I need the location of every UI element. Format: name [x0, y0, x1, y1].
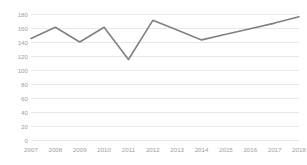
x-axis-tick-label: 2011	[115, 146, 141, 153]
x-axis-tick-label: 2016	[237, 146, 263, 153]
data-series-line	[31, 14, 299, 140]
y-axis-tick-label: 60	[6, 95, 28, 102]
y-axis-tick-label: 140	[6, 39, 28, 46]
plot-area	[31, 14, 299, 140]
y-axis-tick-label: 180	[6, 11, 28, 18]
x-axis-tick-label: 2010	[91, 146, 117, 153]
y-axis-tick-label: 40	[6, 109, 28, 116]
x-axis-tick-label: 2012	[140, 146, 166, 153]
x-axis-tick-label: 2013	[164, 146, 190, 153]
y-axis-tick-label: 80	[6, 81, 28, 88]
x-axis-tick-label: 2008	[42, 146, 68, 153]
y-axis-tick-label: 0	[6, 137, 28, 144]
gridline	[31, 140, 299, 141]
y-axis-tick-label: 160	[6, 25, 28, 32]
x-axis-tick-label: 2009	[67, 146, 93, 153]
line-chart: 020406080100120140160180 200720082009201…	[0, 0, 307, 165]
x-axis-tick-label: 2014	[189, 146, 215, 153]
y-axis-tick-label: 100	[6, 67, 28, 74]
x-axis-tick-label: 2015	[213, 146, 239, 153]
y-axis-tick-label: 20	[6, 123, 28, 130]
x-axis-tick-label: 2017	[262, 146, 288, 153]
y-axis-tick-label: 120	[6, 53, 28, 60]
x-axis-tick-label: 2018	[286, 146, 307, 153]
x-axis-tick-label: 2007	[18, 146, 44, 153]
